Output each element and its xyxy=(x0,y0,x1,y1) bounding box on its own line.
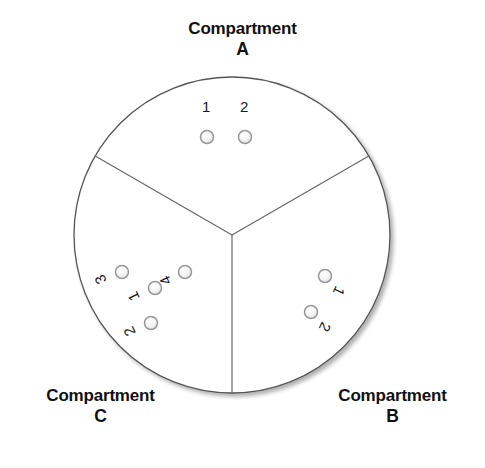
compartment-a-word: Compartment xyxy=(0,18,485,39)
marker-circle xyxy=(319,270,332,283)
marker-circle xyxy=(149,282,162,295)
marker-number-label: 1 xyxy=(202,98,210,115)
compartment-a-letter: A xyxy=(0,39,485,60)
marker-circle xyxy=(305,306,318,319)
marker-circle xyxy=(201,131,214,144)
compartment-c-label: Compartment C xyxy=(8,385,193,427)
marker-circle xyxy=(116,266,129,279)
compartment-b-label: Compartment B xyxy=(300,385,485,427)
compartment-c-letter: C xyxy=(8,406,193,427)
marker-circle xyxy=(179,266,192,279)
marker-circle xyxy=(239,131,252,144)
compartment-b-letter: B xyxy=(300,406,485,427)
marker-circle xyxy=(145,317,158,330)
compartment-b-word: Compartment xyxy=(300,385,485,406)
compartment-a-label: Compartment A xyxy=(0,18,485,60)
compartment-c-word: Compartment xyxy=(8,385,193,406)
marker-number-label: 2 xyxy=(240,98,248,115)
